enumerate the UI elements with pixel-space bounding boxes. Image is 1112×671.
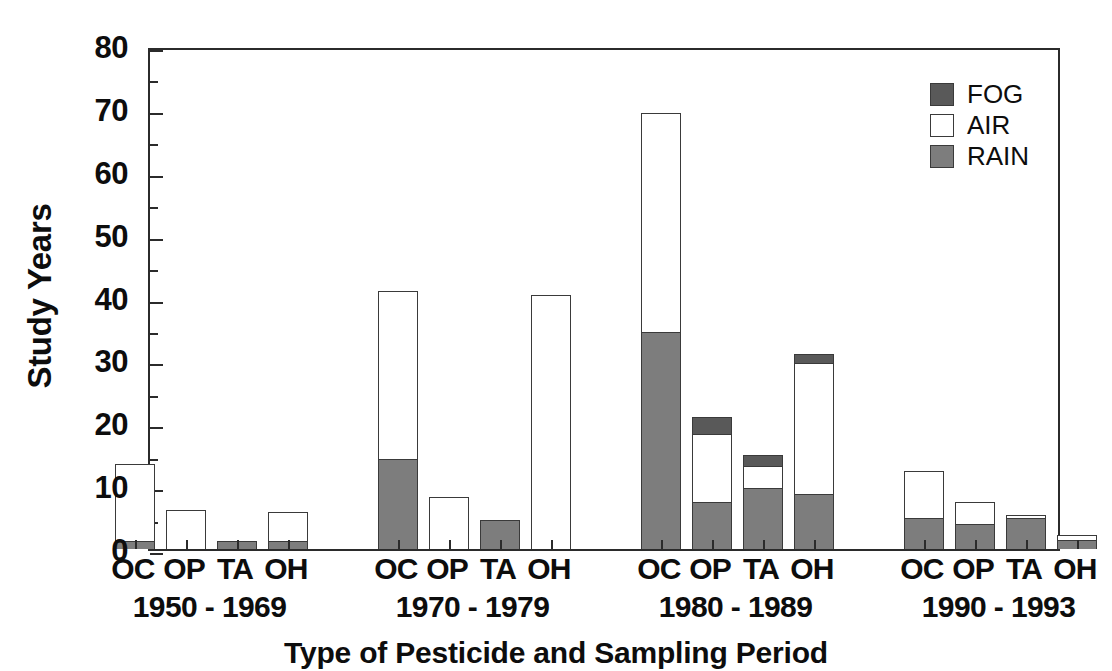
legend-item-fog: FOG	[930, 80, 1080, 108]
bar-segment-air	[641, 113, 681, 334]
x-axis-category-label: OC	[111, 554, 154, 584]
y-axis-minor-tick	[150, 396, 158, 398]
x-axis-tick	[712, 540, 714, 549]
x-axis-category-label: OC	[900, 554, 943, 584]
y-axis-minor-tick	[150, 333, 158, 335]
bar-1980-1989-OP	[692, 414, 732, 549]
bar-segment-rain	[378, 459, 418, 549]
bar-segment-air	[378, 291, 418, 461]
x-axis-category-label: OH	[264, 554, 307, 584]
x-axis-category-label: OP	[689, 554, 731, 584]
x-axis-category-label: TA	[480, 554, 516, 584]
y-axis-major-tick	[150, 239, 163, 241]
bar-1970-1979-OC	[378, 289, 418, 549]
bar-segment-fog	[692, 417, 732, 436]
y-axis-major-tick	[150, 176, 163, 178]
y-axis-major-tick	[150, 302, 163, 304]
x-axis-tick	[237, 540, 239, 549]
y-axis-tick-label: 20	[33, 409, 128, 440]
x-axis-category-label: OP	[426, 554, 468, 584]
y-axis-tick-label: 50	[33, 221, 128, 252]
legend-label: RAIN	[967, 143, 1029, 169]
y-axis-major-tick	[150, 50, 163, 52]
y-axis-major-tick	[150, 427, 163, 429]
bar-1970-1979-OH	[531, 295, 571, 549]
bar-1990-1993-OC	[904, 469, 944, 549]
x-axis-category-label: TA	[1006, 554, 1042, 584]
x-axis-tick	[398, 540, 400, 549]
legend: FOGAIRRAIN	[930, 80, 1080, 173]
y-axis-major-tick	[150, 364, 163, 366]
x-axis-tick	[500, 540, 502, 549]
x-axis-category-label: TA	[743, 554, 779, 584]
bar-1980-1989-TA	[743, 452, 783, 549]
x-axis-tick	[135, 540, 137, 549]
bar-1980-1989-OC	[641, 111, 681, 549]
legend-swatch-air	[930, 114, 954, 137]
bar-1980-1989-OH	[794, 351, 834, 549]
chart-figure: Study Years 01020304050607080 OCOPTAOHOC…	[0, 0, 1112, 671]
x-axis-category-label: OP	[163, 554, 205, 584]
x-axis-category-label: OH	[527, 554, 570, 584]
legend-item-rain: RAIN	[930, 142, 1080, 170]
x-axis-title: Type of Pesticide and Sampling Period	[0, 636, 1112, 670]
x-axis-tick	[763, 540, 765, 549]
y-axis-minor-tick	[150, 207, 158, 209]
x-axis-category-labels: OCOPTAOHOCOPTAOHOCOPTAOHOCOPTAOH	[148, 554, 1060, 594]
bar-segment-rain	[641, 332, 681, 549]
y-axis-minor-tick	[150, 459, 158, 461]
x-axis-tick	[186, 540, 188, 549]
x-axis-category-label: OP	[952, 554, 994, 584]
bar-segment-air	[794, 363, 834, 495]
x-axis-category-label: OC	[637, 554, 680, 584]
x-axis-tick	[661, 540, 663, 549]
x-axis-category-label: OH	[790, 554, 833, 584]
x-axis-group-label: 1990 - 1993	[922, 592, 1076, 622]
y-axis-tick-label: 80	[33, 32, 128, 63]
x-axis-group-label: 1980 - 1989	[659, 592, 813, 622]
x-axis-tick	[1026, 540, 1028, 549]
x-axis-category-label: OC	[374, 554, 417, 584]
y-axis-tick-label: 10	[33, 472, 128, 503]
y-axis-tick-label: 30	[33, 346, 128, 377]
legend-swatch-rain	[930, 145, 954, 168]
x-axis-group-label: 1950 - 1969	[133, 592, 287, 622]
legend-item-air: AIR	[930, 111, 1080, 139]
legend-swatch-fog	[930, 83, 954, 106]
x-axis-tick	[975, 540, 977, 549]
bar-segment-air	[692, 434, 732, 503]
x-axis-tick	[288, 540, 290, 549]
y-axis-tick-label: 70	[33, 95, 128, 126]
x-axis-category-label: OH	[1053, 554, 1096, 584]
x-axis-tick	[449, 540, 451, 549]
x-axis-category-label: TA	[217, 554, 253, 584]
bar-segment-air	[743, 466, 783, 489]
x-axis-tick	[1077, 540, 1079, 549]
bar-segment-air	[904, 471, 944, 519]
y-axis-major-tick	[150, 113, 163, 115]
y-axis-tick-label: 60	[33, 158, 128, 189]
x-axis-tick	[924, 540, 926, 549]
bar-segment-air	[531, 295, 571, 549]
x-axis-group-labels: 1950 - 19691970 - 19791980 - 19891990 - …	[148, 592, 1060, 632]
x-axis-tick	[551, 540, 553, 549]
y-axis-tick-label: 40	[33, 284, 128, 315]
y-axis-minor-tick	[150, 81, 158, 83]
bar-segment-air	[955, 502, 995, 525]
plot-area	[148, 48, 1060, 551]
legend-label: FOG	[967, 81, 1023, 107]
x-axis-tick	[814, 540, 816, 549]
y-axis-minor-tick	[150, 144, 158, 146]
x-axis-group-label: 1970 - 1979	[396, 592, 550, 622]
y-axis-minor-tick	[150, 270, 158, 272]
bar-segment-air	[268, 512, 308, 543]
legend-label: AIR	[967, 112, 1010, 138]
